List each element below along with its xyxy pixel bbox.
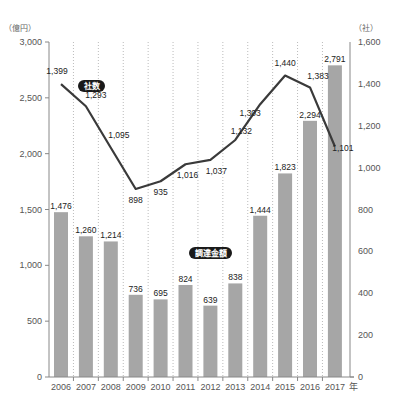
- left-tick-label: 3,000: [19, 37, 42, 47]
- x-tick-label: 2007: [76, 382, 96, 392]
- bar-value-label: 1,214: [100, 230, 122, 240]
- x-tick-label: 2010: [151, 382, 171, 392]
- line-value-label: 898: [129, 195, 143, 205]
- right-axis-unit: （社）: [354, 23, 378, 33]
- bar-2016: [303, 121, 317, 377]
- right-tick-label: 1,000: [358, 163, 381, 173]
- line-value-label: 1,037: [206, 166, 228, 176]
- x-tick-label: 2008: [101, 382, 121, 392]
- left-tick-label: 2,500: [19, 93, 42, 103]
- x-tick-label: 2011: [176, 382, 195, 392]
- bar-value-label: 2,294: [299, 110, 321, 120]
- bar-value-label: 2,791: [324, 54, 346, 64]
- bar-value-label: 736: [129, 284, 143, 294]
- bar-2012: [203, 306, 217, 377]
- right-tick-label: 1,600: [358, 37, 381, 47]
- right-tick-label: 400: [358, 288, 373, 298]
- bar-value-label: 824: [178, 274, 192, 284]
- left-tick-label: 1,000: [19, 260, 42, 270]
- x-tick-label: 2013: [225, 382, 245, 392]
- right-tick-label: 200: [358, 330, 373, 340]
- bar-2011: [179, 285, 193, 377]
- line-value-label: 1,399: [46, 66, 68, 76]
- bar-value-label: 838: [228, 272, 242, 282]
- line-value-label: 1,016: [177, 170, 199, 180]
- right-tick-label: 1,200: [358, 121, 381, 131]
- bar-2008: [104, 241, 118, 377]
- bar-value-label: 1,260: [75, 225, 97, 235]
- right-tick-label: 600: [358, 246, 373, 256]
- x-tick-label: 2015: [275, 382, 295, 392]
- line-series-tag: 社数: [83, 81, 101, 91]
- x-tick-label: 2017: [325, 382, 345, 392]
- bar-series-tag: 調達金額: [195, 248, 227, 258]
- x-tick-label: 2009: [126, 382, 146, 392]
- bar-value-label: 1,476: [50, 201, 72, 211]
- line-value-label: 1,132: [231, 126, 253, 136]
- right-tick-label: 1,400: [358, 79, 381, 89]
- left-tick-label: 500: [27, 316, 42, 326]
- left-tick-label: 0: [37, 372, 42, 382]
- x-tick-label: 2006: [51, 382, 71, 392]
- bar-2013: [228, 283, 242, 377]
- line-value-label: 935: [154, 187, 168, 197]
- bar-value-label: 1,823: [274, 162, 296, 172]
- bar-2006: [54, 212, 68, 377]
- line-value-label: 1,383: [307, 71, 329, 81]
- bar-value-label: 1,444: [250, 205, 272, 215]
- bar-2009: [129, 295, 143, 377]
- bar-2014: [253, 216, 267, 377]
- left-tick-label: 1,500: [19, 205, 42, 215]
- bar-2007: [79, 236, 93, 377]
- left-axis-unit: （億円）: [4, 23, 36, 33]
- line-value-label: 1,095: [108, 130, 130, 140]
- line-value-label: 1,440: [274, 58, 296, 68]
- x-tick-label: 2012: [200, 382, 220, 392]
- bar-2015: [278, 173, 292, 377]
- line-value-label: 1,101: [332, 143, 354, 153]
- right-tick-label: 0: [358, 372, 363, 382]
- bar-2017: [328, 65, 342, 377]
- bar-value-label: 639: [203, 295, 217, 305]
- combo-chart: 05001,0001,5002,0002,5003,000（億円）0200400…: [0, 0, 397, 412]
- x-tick-label: 2014: [250, 382, 270, 392]
- line-value-label: 1,303: [240, 108, 262, 118]
- left-tick-label: 2,000: [19, 149, 42, 159]
- right-tick-label: 800: [358, 205, 373, 215]
- x-tick-label: 2016: [300, 382, 320, 392]
- x-axis-suffix: 年: [349, 381, 358, 392]
- bar-value-label: 695: [154, 288, 168, 298]
- bar-2010: [154, 299, 168, 377]
